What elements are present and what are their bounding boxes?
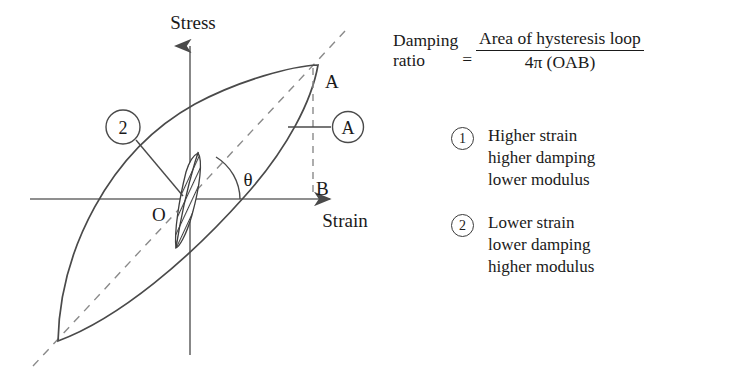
equation-lhs-line1: Damping bbox=[393, 31, 458, 51]
equation-fraction: Area of hysteresis loop 4π (OAB) bbox=[476, 28, 644, 73]
equation-numerator: Area of hysteresis loop bbox=[476, 28, 644, 50]
theta-angle-arc bbox=[216, 157, 240, 199]
legend-list: 1 Higher strain higher damping lower mod… bbox=[451, 125, 595, 300]
legend-text-2: Lower strain lower damping higher modulu… bbox=[488, 212, 594, 277]
legend-number-circle-1: 1 bbox=[451, 127, 474, 150]
equation-denominator: 4π (OAB) bbox=[476, 51, 644, 73]
annotation-panel: Damping ratio = Area of hysteresis loop … bbox=[385, 0, 745, 389]
equation-lhs-line2: ratio bbox=[393, 51, 458, 71]
legend-item-2-line3: higher modulus bbox=[488, 256, 594, 278]
equals-sign: = bbox=[462, 49, 472, 70]
legend-item-2: 2 Lower strain lower damping higher modu… bbox=[451, 212, 595, 277]
theta-label: θ bbox=[243, 169, 252, 190]
label-origin: O bbox=[152, 204, 166, 225]
legend-number-circle-2: 2 bbox=[451, 214, 474, 237]
y-axis-label: Stress bbox=[170, 12, 215, 33]
legend-text-1: Higher strain higher damping lower modul… bbox=[488, 125, 595, 190]
legend-item-1-line2: higher damping bbox=[488, 147, 595, 169]
loop-callout-label: 2 bbox=[119, 118, 128, 138]
equation-left-side: Damping ratio bbox=[393, 31, 458, 71]
x-axis-label: Strain bbox=[322, 210, 368, 231]
legend-item-1-line3: lower modulus bbox=[488, 169, 595, 191]
damping-ratio-equation: Damping ratio = Area of hysteresis loop … bbox=[393, 28, 644, 73]
loop-callout-leader bbox=[136, 140, 183, 196]
legend-item-1: 1 Higher strain higher damping lower mod… bbox=[451, 125, 595, 190]
label-point-a: A bbox=[325, 71, 339, 92]
legend-item-1-line1: Higher strain bbox=[488, 125, 595, 147]
legend-item-2-line2: lower damping bbox=[488, 234, 594, 256]
legend-item-2-line1: Lower strain bbox=[488, 212, 594, 234]
label-point-b: B bbox=[316, 178, 329, 199]
area-callout-label: A bbox=[342, 118, 355, 138]
